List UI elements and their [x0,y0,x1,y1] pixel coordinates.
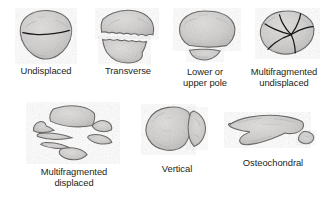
caption-multi-displaced: Multifragmented displaced [41,166,107,189]
panel-pole: Lower or upper pole [166,8,244,89]
transverse-illustration [92,8,164,64]
fragment-inferior [59,148,87,160]
multifragmented-undisplaced-illustration [247,8,321,64]
multifragmented-displaced-illustration [26,102,122,164]
panel-multi-undisplaced: Multifragmented undisplaced [242,8,326,89]
caption-transverse: Transverse [105,65,151,76]
fragment-right-upper [92,121,111,132]
caption-multi-undisplaced: Multifragmented undisplaced [251,66,317,89]
vertical-illustration [138,104,216,162]
patella-fracture-classification-figure: Undisplaced Transverse [0,0,327,205]
panel-transverse: Transverse [88,8,168,76]
pole-illustration [168,8,242,64]
osteochondral-illustration [224,106,322,156]
caption-undisplaced: Undisplaced [20,65,71,76]
vertical-main-fragment [146,107,191,150]
fragment-mid-sliver [37,133,72,139]
fragment-right-lower [88,135,112,144]
transverse-upper-fragment [101,10,153,35]
fragment-superior [50,106,95,127]
panel-osteochondral: Osteochondral [220,106,326,168]
caption-vertical: Vertical [162,163,192,174]
caption-pole: Lower or upper pole [183,66,227,89]
vertical-lateral-fragment [188,111,205,146]
panel-multi-displaced: Multifragmented displaced [22,102,126,189]
transverse-lower-fragment [103,39,147,63]
panel-vertical: Vertical [134,104,220,174]
caption-osteochondral: Osteochondral [243,157,303,168]
fragment-left-wedge [34,121,55,132]
osteochondral-main-body [228,115,303,144]
panel-undisplaced: Undisplaced [6,8,86,76]
undisplaced-illustration [10,8,82,64]
pole-fragment [189,49,220,60]
pole-main-body [179,11,234,47]
osteochondral-flake-fragment [298,131,313,143]
